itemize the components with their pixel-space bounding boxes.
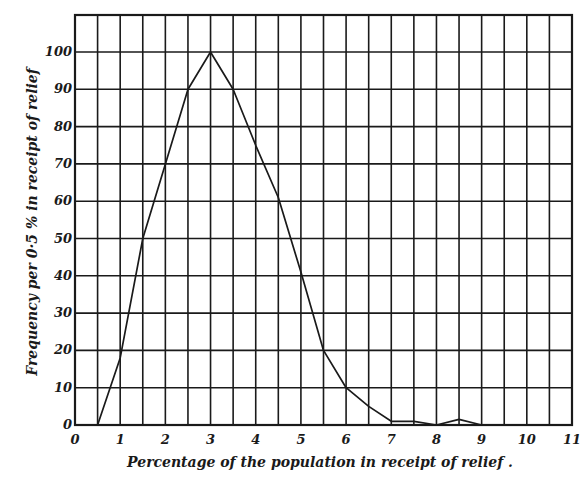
y-tick-label: 50 xyxy=(54,231,72,246)
x-tick-label: 2 xyxy=(160,432,170,447)
x-tick-label: 9 xyxy=(477,432,486,447)
x-tick-label: 3 xyxy=(206,432,215,447)
x-axis-ticks: 01234567891011 xyxy=(70,432,581,447)
y-tick-label: 40 xyxy=(54,268,72,283)
y-tick-label: 100 xyxy=(45,44,72,59)
frequency-chart: 01234567891011 0102030405060708090100 Pe… xyxy=(0,0,586,480)
x-tick-label: 6 xyxy=(342,432,351,447)
x-tick-label: 5 xyxy=(296,432,305,447)
y-tick-label: 0 xyxy=(63,417,72,432)
y-tick-label: 20 xyxy=(53,342,72,357)
x-tick-label: 4 xyxy=(251,432,260,447)
y-axis-label: Frequency per 0·5 % in receipt of relief xyxy=(24,65,40,377)
x-tick-label: 7 xyxy=(387,432,396,447)
x-tick-label: 8 xyxy=(432,432,441,447)
x-tick-label: 1 xyxy=(116,432,125,447)
x-tick-label: 10 xyxy=(518,432,536,447)
x-tick-label: 0 xyxy=(70,432,79,447)
x-axis-label: Percentage of the population in receipt … xyxy=(126,454,513,470)
y-tick-label: 70 xyxy=(54,156,72,171)
y-tick-label: 90 xyxy=(54,81,72,96)
x-tick-label: 11 xyxy=(563,432,581,447)
y-axis-ticks: 0102030405060708090100 xyxy=(45,44,72,432)
y-tick-label: 80 xyxy=(54,119,72,134)
y-tick-label: 30 xyxy=(54,305,72,320)
y-tick-label: 60 xyxy=(54,193,72,208)
grid-lines xyxy=(75,15,572,425)
y-tick-label: 10 xyxy=(54,380,72,395)
